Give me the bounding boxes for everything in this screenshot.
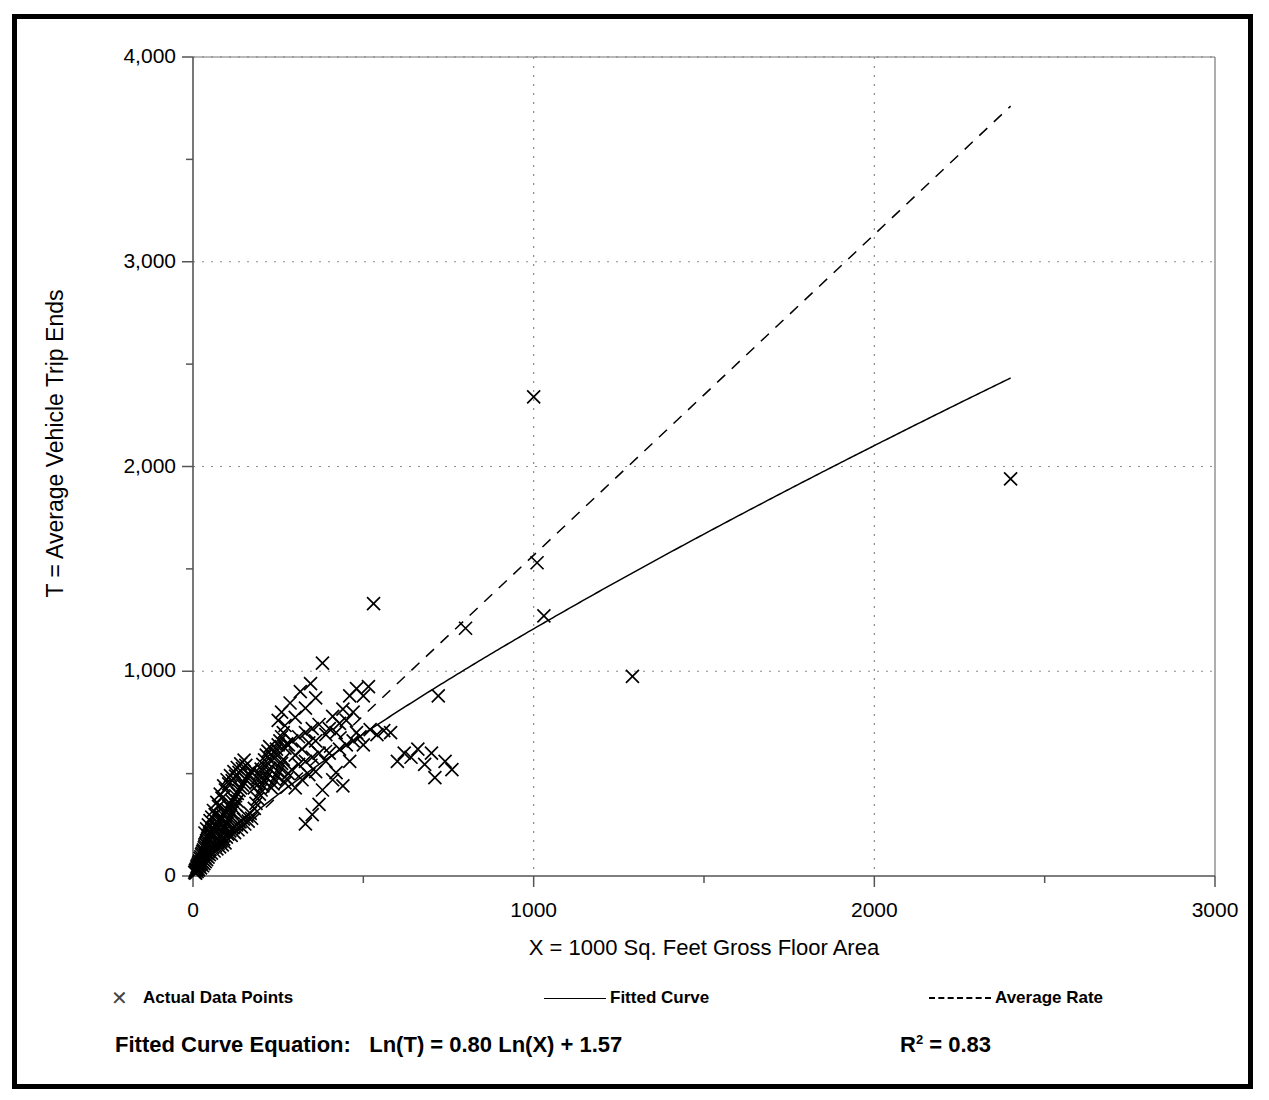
scatter-point <box>425 747 438 760</box>
scatter-point <box>391 755 404 768</box>
legend-item-actual-data-points: ✕ Actual Data Points <box>95 978 293 1018</box>
r2-prefix: R <box>900 1032 916 1057</box>
scatter-point <box>306 751 319 764</box>
scatter-point <box>340 738 353 751</box>
x-tick-label: 1000 <box>474 898 594 922</box>
scatter-point <box>1004 472 1017 485</box>
chart-figure: T = Average Vehicle Trip Ends X = 1000 S… <box>0 0 1269 1100</box>
scatter-point <box>411 743 424 756</box>
y-tick-label: 3,000 <box>8 249 176 273</box>
scatter-points <box>188 390 1017 879</box>
scatter-point <box>537 609 550 622</box>
y-tick-label: 1,000 <box>8 658 176 682</box>
scatter-point <box>343 755 356 768</box>
fitted-curve-equation: Fitted Curve Equation: Ln(T) = 0.80 Ln(X… <box>115 1032 622 1058</box>
scatter-point <box>330 726 343 739</box>
legend-item-average-rate: Average Rate <box>925 978 1103 1018</box>
scatter-point <box>527 390 540 403</box>
legend-label: Actual Data Points <box>143 988 293 1008</box>
equation-row: Fitted Curve Equation: Ln(T) = 0.80 Ln(X… <box>20 1028 1250 1072</box>
scatter-point <box>626 670 639 683</box>
scatter-point <box>432 689 445 702</box>
equation-text: Ln(T) = 0.80 Ln(X) + 1.57 <box>369 1032 622 1057</box>
scatter-point <box>309 691 322 704</box>
scatter-point <box>336 703 349 716</box>
chart-legend: ✕ Actual Data Points Fitted Curve Averag… <box>20 978 1250 1018</box>
scatter-point <box>306 722 319 735</box>
scatter-point <box>347 706 360 719</box>
scatter-point <box>418 758 431 771</box>
scatter-point <box>316 784 329 797</box>
scatter-point <box>370 728 383 741</box>
scatter-point <box>304 677 317 690</box>
legend-label: Fitted Curve <box>610 988 709 1008</box>
equation-label: Fitted Curve Equation: <box>115 1032 351 1057</box>
r-squared-value: R2 = 0.83 <box>900 1032 991 1058</box>
legend-label: Average Rate <box>995 988 1103 1008</box>
dashed-line-icon <box>925 997 995 999</box>
scatter-point <box>364 723 377 736</box>
scatter-point <box>333 743 346 756</box>
y-tick-label: 4,000 <box>8 44 176 68</box>
scatter-point <box>294 685 307 698</box>
scatter-point <box>398 747 411 760</box>
scatter-point <box>428 771 441 784</box>
solid-line-icon <box>540 998 610 999</box>
scatter-point <box>299 726 312 739</box>
scatter-point <box>285 734 298 747</box>
scatter-point <box>405 751 418 764</box>
x-tick-label: 0 <box>133 898 253 922</box>
x-marker-icon: ✕ <box>95 988 143 1008</box>
x-axis-title: X = 1000 Sq. Feet Gross Floor Area <box>193 935 1215 961</box>
x-tick-label: 2000 <box>814 898 934 922</box>
legend-item-fitted-curve: Fitted Curve <box>540 978 709 1018</box>
r2-number: = 0.83 <box>923 1032 991 1057</box>
scatter-point <box>439 755 452 768</box>
scatter-point <box>299 817 312 830</box>
y-tick-label: 0 <box>8 863 176 887</box>
scatter-point <box>316 657 329 670</box>
y-tick-label: 2,000 <box>8 454 176 478</box>
scatter-point <box>531 556 544 569</box>
x-tick-label: 3000 <box>1155 898 1269 922</box>
scatter-point <box>367 597 380 610</box>
scatter-point <box>459 622 472 635</box>
scatter-point <box>445 763 458 776</box>
